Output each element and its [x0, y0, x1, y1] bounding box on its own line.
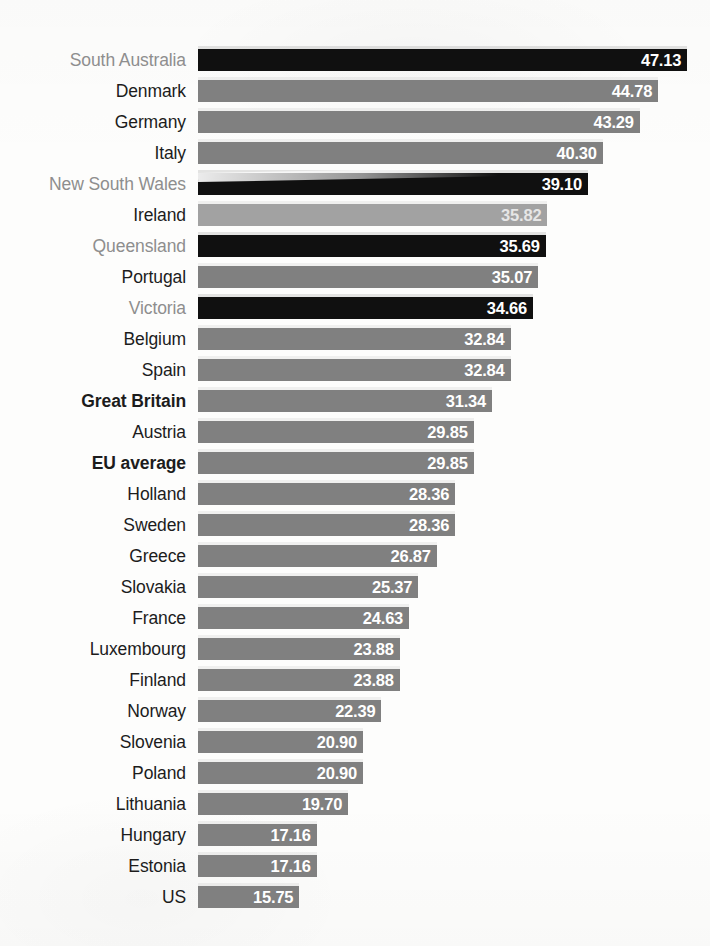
bar-track: 40.30 — [198, 142, 603, 164]
bar-track: 25.37 — [198, 576, 418, 598]
bar-value-label: 39.10 — [542, 173, 582, 195]
category-label: Belgium — [0, 327, 186, 351]
category-label: New South Wales — [0, 172, 186, 196]
category-label: Poland — [0, 761, 186, 785]
bar-track: 28.36 — [198, 483, 455, 505]
category-label: Luxembourg — [0, 637, 186, 661]
bar-track: 29.85 — [198, 421, 474, 443]
bar-row: Norway22.39 — [0, 699, 710, 723]
bar-row: Slovenia20.90 — [0, 730, 710, 754]
bar-row: South Australia47.13 — [0, 48, 710, 72]
category-label: Hungary — [0, 823, 186, 847]
bar-value-label: 28.36 — [409, 483, 449, 505]
bar: 43.29 — [198, 111, 640, 133]
category-label: Queensland — [0, 234, 186, 258]
bar: 28.36 — [198, 483, 455, 505]
bar-track: 20.90 — [198, 731, 363, 753]
bar-track: 23.88 — [198, 669, 400, 691]
bar-row: Greece26.87 — [0, 544, 710, 568]
bar-row: Slovakia25.37 — [0, 575, 710, 599]
bar-row: Germany43.29 — [0, 110, 710, 134]
bar-value-label: 35.82 — [501, 204, 541, 226]
bar-value-label: 32.84 — [464, 328, 504, 350]
bar-value-label: 29.85 — [427, 421, 467, 443]
bar-value-label: 43.29 — [593, 111, 633, 133]
bar-value-label: 22.39 — [335, 700, 375, 722]
bar-value-label: 24.63 — [363, 607, 403, 629]
bar-value-label: 32.84 — [464, 359, 504, 381]
bar-chart: South Australia47.13Denmark44.78Germany4… — [0, 0, 710, 946]
bar-row: Estonia17.16 — [0, 854, 710, 878]
bar-row: Poland20.90 — [0, 761, 710, 785]
bar-value-label: 40.30 — [556, 142, 596, 164]
bar-value-label: 20.90 — [317, 731, 357, 753]
bar-track: 15.75 — [198, 886, 299, 908]
bar: 35.82 — [198, 204, 547, 226]
bar: 22.39 — [198, 700, 381, 722]
bar: 23.88 — [198, 669, 400, 691]
bar-value-label: 35.07 — [492, 266, 532, 288]
category-label: Finland — [0, 668, 186, 692]
bar-row: New South Wales39.10 — [0, 172, 710, 196]
bar-row: Belgium32.84 — [0, 327, 710, 351]
bar-row: Austria29.85 — [0, 420, 710, 444]
bar-value-label: 44.78 — [612, 80, 652, 102]
category-label: Sweden — [0, 513, 186, 537]
bar: 20.90 — [198, 731, 363, 753]
bar-row: US15.75 — [0, 885, 710, 909]
bar-value-label: 34.66 — [487, 297, 527, 319]
bar-value-label: 31.34 — [446, 390, 486, 412]
bar-value-label: 17.16 — [270, 855, 310, 877]
category-label: Ireland — [0, 203, 186, 227]
bar-track: 39.10 — [198, 173, 588, 195]
bar-row: Portugal35.07 — [0, 265, 710, 289]
bar-row: Ireland35.82 — [0, 203, 710, 227]
category-label: Spain — [0, 358, 186, 382]
bar: 44.78 — [198, 80, 658, 102]
bar: 47.13 — [198, 49, 687, 71]
bar: 40.30 — [198, 142, 603, 164]
bar-row: Spain32.84 — [0, 358, 710, 382]
bar: 24.63 — [198, 607, 409, 629]
bar-track: 23.88 — [198, 638, 400, 660]
bar-value-label: 17.16 — [270, 824, 310, 846]
bar-row: Italy40.30 — [0, 141, 710, 165]
bar: 26.87 — [198, 545, 437, 567]
bar-track: 34.66 — [198, 297, 533, 319]
bar-row: Luxembourg23.88 — [0, 637, 710, 661]
category-label: South Australia — [0, 48, 186, 72]
bar-track: 35.69 — [198, 235, 546, 257]
bar-track: 32.84 — [198, 328, 511, 350]
bar: 32.84 — [198, 359, 511, 381]
bar-row: Queensland35.69 — [0, 234, 710, 258]
bar-value-label: 19.70 — [302, 793, 342, 815]
bar-value-label: 20.90 — [317, 762, 357, 784]
bar-track: 19.70 — [198, 793, 348, 815]
category-label: France — [0, 606, 186, 630]
bar-track: 43.29 — [198, 111, 640, 133]
category-label: Victoria — [0, 296, 186, 320]
bar-row: Denmark44.78 — [0, 79, 710, 103]
bar-track: 28.36 — [198, 514, 455, 536]
bar-value-label: 28.36 — [409, 514, 449, 536]
bar-track: 22.39 — [198, 700, 381, 722]
bar-row: Great Britain31.34 — [0, 389, 710, 413]
category-label: Slovakia — [0, 575, 186, 599]
bar-value-label: 23.88 — [354, 638, 394, 660]
category-label: Austria — [0, 420, 186, 444]
bar-track: 35.07 — [198, 266, 538, 288]
bar-row: Victoria34.66 — [0, 296, 710, 320]
category-label: Great Britain — [0, 389, 186, 413]
bar: 23.88 — [198, 638, 400, 660]
category-label: Denmark — [0, 79, 186, 103]
bar: 32.84 — [198, 328, 511, 350]
bar-track: 17.16 — [198, 824, 317, 846]
bar: 17.16 — [198, 824, 317, 846]
bar-track: 47.13 — [198, 49, 687, 71]
bar-track: 17.16 — [198, 855, 317, 877]
bar-value-label: 15.75 — [253, 886, 293, 908]
bar-row: Sweden28.36 — [0, 513, 710, 537]
bar-value-label: 47.13 — [641, 49, 681, 71]
category-label: Lithuania — [0, 792, 186, 816]
bar-value-label: 29.85 — [427, 452, 467, 474]
